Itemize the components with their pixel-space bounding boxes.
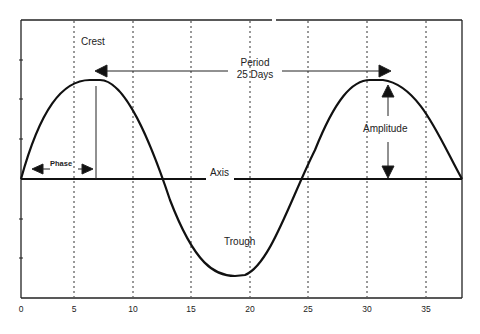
amplitude-label: Amplitude <box>363 123 408 134</box>
x-tick-label: 10 <box>128 304 138 314</box>
period-label: Period <box>241 57 270 68</box>
x-tick-label: 15 <box>186 304 196 314</box>
sine-wave-diagram: Crest Period 25 Days Amplitude Phase Axi… <box>0 0 480 334</box>
x-tick-label: 35 <box>421 304 431 314</box>
x-tick-label: 0 <box>19 304 24 314</box>
trough-label: Trough <box>224 236 255 247</box>
x-tick-labels: 0 5 10 15 20 25 30 35 <box>19 304 431 314</box>
x-tick-label: 20 <box>245 304 255 314</box>
x-tick-label: 30 <box>362 304 372 314</box>
x-tick-label: 5 <box>72 304 77 314</box>
period-days-label: 25 Days <box>237 69 274 80</box>
crest-label: Crest <box>81 36 105 47</box>
x-tick-label: 25 <box>303 304 313 314</box>
axis-label: Axis <box>210 167 229 178</box>
phase-label: Phase <box>50 159 72 168</box>
